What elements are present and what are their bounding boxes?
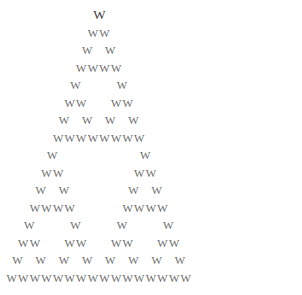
fractal-glyph: W — [82, 113, 93, 127]
fractal-glyph: W — [29, 236, 40, 250]
fractal-glyph: W — [87, 26, 98, 40]
fractal-row: WWWW — [0, 183, 302, 200]
fractal-glyph: W — [174, 253, 185, 267]
fractal-glyph: W — [64, 271, 75, 285]
fractal-glyph: W — [70, 78, 81, 92]
fractal-glyph: W — [82, 43, 93, 57]
fractal-row: WW — [0, 26, 302, 43]
fractal-glyph: W — [180, 271, 191, 285]
fractal-glyph: W — [41, 201, 52, 215]
fractal-glyph: W — [134, 201, 145, 215]
fractal-glyph: W — [134, 131, 145, 145]
sierpinski-triangle-figure: WWWWWWWWWWWWWWWWWWWWWWWWWWWWWWWWWWWWWWWW… — [0, 0, 302, 295]
fractal-glyph: W — [53, 271, 64, 285]
fractal-glyph: W — [12, 253, 23, 267]
fractal-glyph: W — [64, 96, 75, 110]
fractal-glyph: W — [111, 271, 122, 285]
fractal-row: WW — [0, 43, 302, 60]
fractal-row: WWWWWWWW — [0, 201, 302, 218]
fractal-glyph: W — [151, 183, 162, 197]
fractal-glyph: W — [35, 253, 46, 267]
fractal-glyph: W — [105, 113, 116, 127]
fractal-row: WWWWWWWW — [0, 131, 302, 148]
fractal-glyph: W — [105, 253, 116, 267]
fractal-glyph: W — [58, 253, 69, 267]
fractal-glyph: W — [47, 148, 58, 162]
fractal-glyph: W — [53, 201, 64, 215]
fractal-glyph: W — [105, 43, 116, 57]
fractal-glyph: W — [87, 271, 98, 285]
fractal-glyph: W — [58, 183, 69, 197]
fractal-row: WWWW — [0, 166, 302, 183]
fractal-glyph: W — [157, 201, 168, 215]
fractal-glyph: W — [76, 96, 87, 110]
fractal-glyph: W — [41, 166, 52, 180]
fractal-glyph: W — [111, 61, 122, 75]
fractal-glyph: W — [87, 131, 98, 145]
fractal-glyph: W — [58, 113, 69, 127]
fractal-glyph: W — [53, 131, 64, 145]
fractal-glyph: W — [163, 218, 174, 232]
fractal-glyph: W — [111, 236, 122, 250]
fractal-glyph: W — [157, 236, 168, 250]
fractal-row: WWWWWWWW — [0, 253, 302, 270]
fractal-glyph: W — [145, 201, 156, 215]
fractal-glyph: W — [76, 131, 87, 145]
fractal-glyph: W — [24, 218, 35, 232]
fractal-glyph: W — [76, 236, 87, 250]
fractal-glyph: W — [122, 96, 133, 110]
fractal-row: WW — [0, 78, 302, 95]
fractal-glyph: W — [151, 253, 162, 267]
fractal-glyph: W — [111, 96, 122, 110]
fractal-glyph: W — [35, 183, 46, 197]
fractal-row: WWWW — [0, 113, 302, 130]
fractal-glyph: W — [99, 61, 110, 75]
fractal-glyph: W — [87, 61, 98, 75]
fractal-row: WWWW — [0, 218, 302, 235]
fractal-glyph: W — [116, 78, 127, 92]
fractal-glyph: W — [99, 271, 110, 285]
fractal-glyph: W — [122, 236, 133, 250]
fractal-glyph: W — [53, 166, 64, 180]
fractal-glyph: W — [111, 131, 122, 145]
fractal-glyph: W — [145, 166, 156, 180]
fractal-glyph: W — [76, 271, 87, 285]
fractal-glyph: W — [128, 113, 139, 127]
fractal-glyph: W — [64, 236, 75, 250]
fractal-glyph: W — [122, 271, 133, 285]
fractal-glyph: W — [29, 201, 40, 215]
fractal-row: WWWWWWWWWWWWWWWW — [0, 271, 302, 288]
fractal-row: WWWW — [0, 96, 302, 113]
fractal-glyph: W — [18, 271, 29, 285]
fractal-row: WWWW — [0, 61, 302, 78]
fractal-glyph: W — [93, 8, 104, 22]
fractal-glyph: W — [169, 271, 180, 285]
fractal-glyph: W — [64, 131, 75, 145]
fractal-glyph: W — [157, 271, 168, 285]
fractal-glyph: W — [64, 201, 75, 215]
fractal-glyph: W — [82, 253, 93, 267]
fractal-glyph: W — [18, 236, 29, 250]
fractal-glyph: W — [145, 271, 156, 285]
fractal-glyph: W — [99, 131, 110, 145]
fractal-glyph: W — [6, 271, 17, 285]
fractal-glyph: W — [99, 26, 110, 40]
fractal-glyph: W — [134, 166, 145, 180]
fractal-glyph: W — [122, 131, 133, 145]
fractal-glyph: W — [29, 271, 40, 285]
fractal-row: W — [0, 8, 302, 25]
fractal-glyph: W — [134, 271, 145, 285]
fractal-glyph: W — [70, 218, 81, 232]
fractal-glyph: W — [116, 218, 127, 232]
fractal-glyph: W — [122, 201, 133, 215]
fractal-glyph: W — [169, 236, 180, 250]
fractal-glyph: W — [76, 61, 87, 75]
fractal-row: WWWWWWWW — [0, 236, 302, 253]
fractal-glyph: W — [128, 253, 139, 267]
fractal-glyph: W — [128, 183, 139, 197]
fractal-row: WW — [0, 148, 302, 165]
fractal-glyph: W — [140, 148, 151, 162]
fractal-glyph: W — [41, 271, 52, 285]
